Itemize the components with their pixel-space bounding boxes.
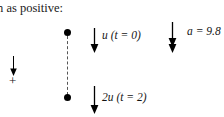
initial-velocity-arrow-icon <box>88 28 101 54</box>
end-point-marker <box>64 94 71 101</box>
final-velocity-label: 2u (t = 2) <box>102 91 147 104</box>
initial-velocity-label: u (t = 0) <box>102 29 141 42</box>
positive-sign-label: + <box>9 74 16 87</box>
acceleration-label: a = 9.8 <box>187 25 221 38</box>
figure-caption: n as positive: <box>0 1 63 15</box>
final-velocity-arrow-icon <box>88 86 101 115</box>
acceleration-arrow-icon <box>166 22 179 54</box>
trajectory-dashed-line <box>67 36 68 95</box>
physics-motion-diagram: n as positive: + u (t = 0) 2u (t = 2) <box>0 0 224 117</box>
start-point-marker <box>64 29 71 36</box>
